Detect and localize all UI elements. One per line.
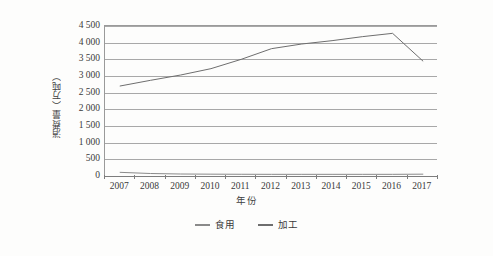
y-axis-tick-label: 0 <box>95 170 100 180</box>
x-axis-tick <box>286 175 287 179</box>
x-axis-tick <box>134 175 135 179</box>
y-axis-tick-label: 1 000 <box>79 137 100 147</box>
x-axis-tick <box>316 175 317 179</box>
x-axis-tick-label: 2011 <box>231 180 250 192</box>
y-axis-tick-label: 500 <box>86 153 100 163</box>
x-axis-tick <box>407 175 408 179</box>
chart-legend: 食用加工 <box>0 219 493 231</box>
y-axis-tick-label: 4 500 <box>79 20 100 30</box>
x-axis-tick <box>225 175 226 179</box>
x-axis-tick-label: 2016 <box>382 180 401 192</box>
x-axis-title: 年份 <box>0 195 493 207</box>
x-axis-tick <box>195 175 196 179</box>
y-axis-tick-label: 4 000 <box>79 37 100 47</box>
series-lines <box>105 26 438 176</box>
x-axis-tick-label: 2007 <box>110 180 129 192</box>
line-chart: 消费量（万吨） 05001 0001 5002 0002 5003 0003 5… <box>0 0 493 256</box>
x-axis-tick-label: 2013 <box>291 180 310 192</box>
y-axis-tick-label: 1 500 <box>79 120 100 130</box>
x-axis-tick <box>376 175 377 179</box>
legend-item[interactable]: 加工 <box>258 219 299 231</box>
x-axis-tick-label: 2009 <box>170 180 189 192</box>
x-axis-tick-label: 2012 <box>261 180 280 192</box>
x-axis-tick-label: 2010 <box>200 180 219 192</box>
legend-line-icon <box>258 224 273 226</box>
x-axis-tick <box>437 175 438 179</box>
x-axis-tick-label: 2015 <box>352 180 371 192</box>
legend-label: 加工 <box>278 219 299 231</box>
y-axis-tick-label: 2 000 <box>79 103 100 113</box>
plot-area <box>104 25 437 175</box>
y-axis-tick-label: 2 500 <box>79 87 100 97</box>
y-axis-tick-labels: 05001 0001 5002 0002 5003 0003 5004 0004… <box>60 20 104 180</box>
x-axis-tick <box>255 175 256 179</box>
y-axis-tick-label: 3 000 <box>79 70 100 80</box>
x-axis-tick-labels: 2007200820092010201120122013201420152016… <box>104 180 437 194</box>
legend-label: 食用 <box>215 219 236 231</box>
x-axis-tick <box>104 175 105 179</box>
series-line-加工 <box>120 33 423 86</box>
x-axis-tick-label: 2014 <box>322 180 341 192</box>
y-axis-tick-label: 3 500 <box>79 53 100 63</box>
x-axis-tick-label: 2008 <box>140 180 159 192</box>
x-axis-tick <box>346 175 347 179</box>
legend-item[interactable]: 食用 <box>195 219 236 231</box>
x-axis-tick <box>165 175 166 179</box>
x-axis-tick-label: 2017 <box>412 180 431 192</box>
legend-line-icon <box>195 224 210 226</box>
